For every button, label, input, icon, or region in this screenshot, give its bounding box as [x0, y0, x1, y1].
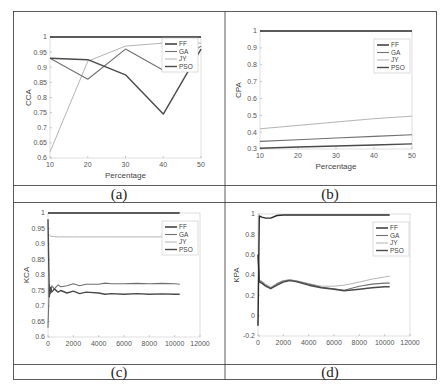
panel-b: 0.30.40.50.60.70.80.911020304050Percenta…: [234, 27, 416, 171]
y-axis-label: KCA: [22, 266, 31, 283]
y-tick-label: 0.6: [247, 95, 257, 102]
y-tick-label: 0.85: [33, 79, 47, 86]
legend-label-jy: JY: [179, 238, 187, 245]
x-tick-label: 20: [84, 161, 92, 168]
y-tick-label: 0.75: [31, 287, 45, 294]
x-tick-label: 40: [370, 152, 378, 159]
y-tick-label: 1: [41, 209, 45, 216]
x-tick-label: 4000: [301, 339, 317, 346]
x-tick-label: 12000: [190, 340, 210, 347]
legend: FFGAJYPSO: [162, 221, 198, 255]
y-tick-label: -0.2: [243, 332, 255, 339]
x-tick-label: 10000: [375, 339, 395, 346]
legend-label-pso: PSO: [179, 63, 193, 70]
x-tick-label: 10: [46, 161, 54, 168]
x-tick-label: 10: [256, 152, 264, 159]
x-axis-label: Percentage: [105, 171, 146, 180]
caption-c: (c): [111, 364, 128, 381]
panel-c: 0.60.650.70.750.80.850.90.95102000400060…: [22, 209, 210, 347]
y-tick-label: 0.95: [31, 225, 45, 232]
y-tick-label: 0.85: [31, 256, 45, 263]
x-tick-label: 40: [159, 161, 167, 168]
x-tick-label: 0: [256, 339, 260, 346]
x-tick-label: 50: [197, 161, 205, 168]
y-tick-label: 0.65: [31, 318, 45, 325]
y-tick-label: 0.4: [247, 129, 257, 136]
y-tick-label: 0.6: [245, 251, 255, 258]
x-tick-label: 4000: [91, 340, 107, 347]
x-tick-label: 30: [122, 161, 130, 168]
y-tick-label: 0.7: [247, 78, 257, 85]
y-axis-label: CCA: [24, 88, 33, 106]
legend: FFGAJYPSO: [162, 38, 198, 72]
y-axis-label: KPA: [232, 267, 241, 283]
legend-label-ff: FF: [390, 224, 398, 231]
x-tick-label: 0: [46, 340, 50, 347]
x-tick-label: 20: [294, 152, 302, 159]
y-tick-label: 0.9: [35, 240, 45, 247]
y-tick-label: 1: [43, 33, 47, 40]
legend-label-ff: FF: [179, 40, 187, 47]
y-tick-label: 0.2: [245, 292, 255, 299]
y-tick-label: 0.65: [33, 139, 47, 146]
y-tick-label: 0.8: [245, 231, 255, 238]
x-axis-label: Percentage: [316, 162, 357, 171]
x-tick-label: 6000: [116, 340, 132, 347]
legend-label-ga: GA: [391, 49, 401, 56]
legend: FFGAJYPSO: [373, 222, 409, 256]
y-tick-label: 0.9: [37, 64, 47, 71]
legend-label-ga: GA: [179, 48, 189, 55]
y-tick-label: 0.9: [247, 44, 257, 51]
x-tick-label: 2000: [276, 339, 292, 346]
caption-d: (d): [321, 364, 339, 381]
panel-d: -0.200.20.40.60.810200040006000800010000…: [232, 210, 420, 346]
y-tick-label: 0.4: [245, 271, 255, 278]
x-tick-label: 50: [408, 152, 416, 159]
x-tick-label: 8000: [142, 340, 158, 347]
legend-label-ga: GA: [390, 232, 400, 239]
x-tick-label: 6000: [326, 339, 342, 346]
legend-label-pso: PSO: [391, 64, 405, 71]
y-tick-label: 1: [253, 27, 257, 34]
y-tick-label: 0.95: [33, 49, 47, 56]
y-tick-label: 0.6: [35, 333, 45, 340]
x-tick-label: 12000: [400, 339, 420, 346]
y-tick-label: 0.7: [37, 124, 47, 131]
y-tick-label: 0.8: [247, 61, 257, 68]
y-tick-label: 0.5: [247, 112, 257, 119]
legend-label-pso: PSO: [390, 247, 404, 254]
y-tick-label: 1: [251, 210, 255, 217]
legend-label-ff: FF: [179, 223, 187, 230]
caption-a: (a): [111, 186, 128, 203]
y-axis-label: CPA: [234, 81, 243, 98]
x-tick-label: 8000: [352, 339, 368, 346]
y-tick-label: 0.8: [37, 94, 47, 101]
legend-label-pso: PSO: [179, 246, 193, 253]
legend-label-ff: FF: [391, 41, 399, 48]
x-tick-label: 2000: [66, 340, 82, 347]
y-tick-label: 0.75: [33, 109, 47, 116]
x-tick-label: 10000: [165, 340, 185, 347]
y-tick-label: 0.8: [35, 271, 45, 278]
figure-grid: 0.60.650.70.750.80.850.90.9511020304050P…: [0, 0, 446, 388]
legend-label-jy: JY: [390, 239, 398, 246]
y-tick-label: 0: [251, 312, 255, 319]
legend-label-ga: GA: [179, 231, 189, 238]
caption-b: (b): [321, 186, 339, 203]
panel-a: 0.60.650.70.750.80.850.90.9511020304050P…: [24, 33, 205, 180]
legend-label-jy: JY: [391, 56, 399, 63]
legend: FFGAJYPSO: [374, 39, 410, 73]
legend-label-jy: JY: [179, 55, 187, 62]
y-tick-label: 0.7: [35, 302, 45, 309]
x-tick-label: 30: [332, 152, 340, 159]
